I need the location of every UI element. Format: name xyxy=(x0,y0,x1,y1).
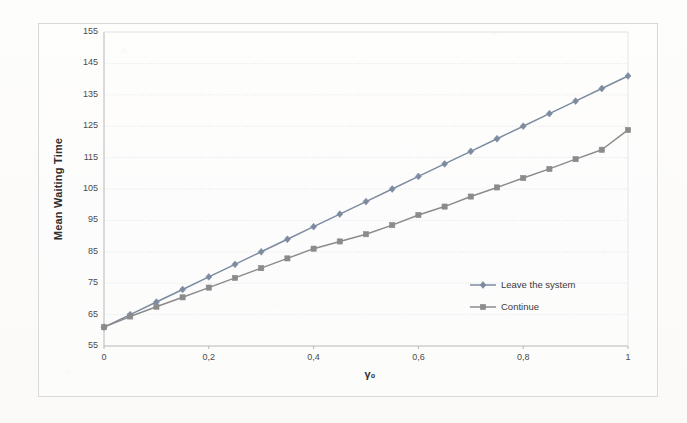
data-point-marker xyxy=(573,98,579,105)
data-point-marker xyxy=(599,85,605,92)
y-tick-label: 125 xyxy=(70,120,98,130)
x-tick-label: 0,6 xyxy=(398,352,438,362)
data-point-marker xyxy=(521,175,526,180)
legend-item-label: Continue xyxy=(501,301,539,312)
data-point-marker xyxy=(468,148,474,155)
axis-lines xyxy=(104,32,628,349)
data-point-marker xyxy=(494,135,500,142)
data-point-marker xyxy=(232,261,238,268)
data-point-marker xyxy=(180,286,186,293)
data-point-marker xyxy=(337,239,342,244)
y-tick-label: 85 xyxy=(70,246,98,256)
data-point-marker xyxy=(546,110,552,117)
x-axis-title-text: γ₀ xyxy=(364,368,375,380)
gridlines xyxy=(104,32,628,315)
data-point-marker xyxy=(284,236,290,243)
data-point-marker xyxy=(128,314,133,319)
data-point-marker xyxy=(547,166,552,171)
y-tick-label: 95 xyxy=(70,214,98,224)
data-point-marker xyxy=(573,157,578,162)
y-tick-label: 135 xyxy=(70,89,98,99)
y-tick-label: 115 xyxy=(70,152,98,162)
data-point-marker xyxy=(599,147,604,152)
y-tick-label: 145 xyxy=(70,57,98,67)
data-point-marker xyxy=(468,194,473,199)
data-point-marker xyxy=(101,325,106,330)
data-point-marker xyxy=(363,232,368,237)
data-point-marker xyxy=(442,204,447,209)
data-point-marker xyxy=(363,198,369,205)
line-chart: Mean Waiting Time γ₀ 5565758595105115125… xyxy=(0,0,687,423)
data-point-marker xyxy=(154,304,159,309)
data-point-marker xyxy=(206,285,211,290)
data-point-marker xyxy=(625,127,630,132)
data-point-marker xyxy=(180,295,185,300)
x-tick-label: 0,4 xyxy=(294,352,334,362)
y-tick-label: 75 xyxy=(70,277,98,287)
data-point-marker xyxy=(285,256,290,261)
data-point-marker xyxy=(390,223,395,228)
data-point-marker xyxy=(415,173,421,180)
data-point-marker xyxy=(389,186,395,193)
data-point-marker xyxy=(494,185,499,190)
data-point-marker xyxy=(480,282,486,289)
data-point-marker xyxy=(337,211,343,218)
x-tick-label: 0,8 xyxy=(503,352,543,362)
y-tick-label: 55 xyxy=(70,340,98,350)
y-axis-title: Mean Waiting Time xyxy=(52,119,64,259)
data-point-marker xyxy=(232,275,237,280)
y-tick-label: 105 xyxy=(70,183,98,193)
data-point-marker xyxy=(258,248,264,255)
x-axis-title: γ₀ xyxy=(300,368,440,380)
y-tick-label: 65 xyxy=(70,309,98,319)
data-point-marker xyxy=(311,246,316,251)
series-layer xyxy=(101,73,631,331)
data-point-marker xyxy=(416,212,421,217)
y-tick-label: 155 xyxy=(70,26,98,36)
data-point-marker xyxy=(625,73,631,80)
data-point-marker xyxy=(311,223,317,230)
data-point-marker xyxy=(442,160,448,167)
data-point-marker xyxy=(480,304,485,309)
x-tick-label: 0 xyxy=(84,352,124,362)
data-point-marker xyxy=(259,266,264,271)
x-tick-label: 0,2 xyxy=(189,352,229,362)
legend-item-label: Leave the system xyxy=(501,279,575,290)
data-point-marker xyxy=(206,274,212,281)
data-point-marker xyxy=(520,123,526,130)
x-tick-label: 1 xyxy=(608,352,648,362)
legend-marks xyxy=(470,282,496,310)
